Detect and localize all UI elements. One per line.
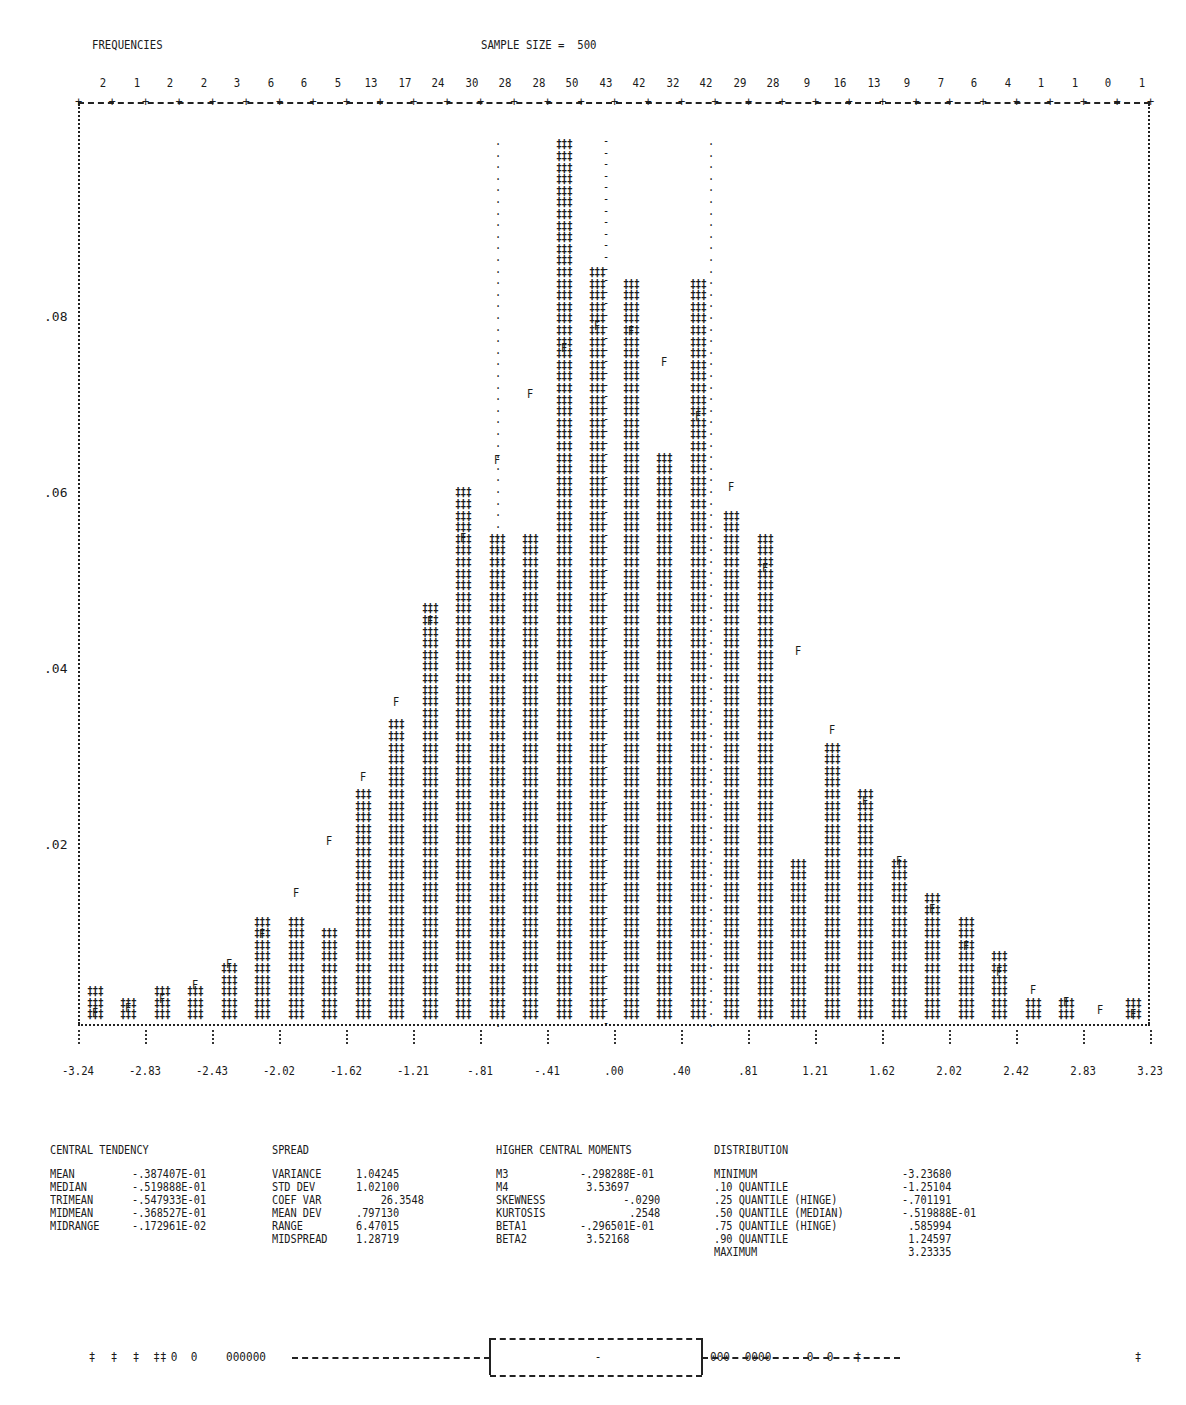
- x-tick-label: .81: [738, 1063, 757, 1078]
- bar-cell: ‡‡‡: [690, 498, 706, 510]
- bar-cell: ‡‡‡: [757, 776, 773, 788]
- bin-boundary-mark: +: [712, 99, 718, 105]
- bar-cell: ‡‡‡: [857, 962, 873, 974]
- bar-cell: ‡‡‡: [455, 544, 471, 556]
- bar-cell: ‡‡‡: [422, 672, 438, 684]
- bar-cell: ‡‡‡: [690, 1008, 706, 1020]
- x-tick: [949, 1030, 953, 1044]
- frequency-count: 28: [499, 75, 512, 90]
- fit-curve-marker: F: [728, 481, 734, 493]
- fit-curve-marker: F: [393, 696, 399, 708]
- bin-boundary-mark: +: [544, 99, 550, 105]
- bar-cell: ‡‡‡: [757, 927, 773, 939]
- bar-cell: ‡‡‡: [556, 939, 572, 951]
- fit-curve-marker: F: [963, 940, 969, 952]
- bar-cell: ‡‡‡: [623, 695, 639, 707]
- fit-curve-marker: F: [561, 342, 567, 354]
- bar-cell: ‡‡‡: [422, 869, 438, 881]
- quartile-line-mark: .: [495, 1017, 501, 1029]
- y-tick-label: .02: [44, 837, 67, 852]
- left-outlier-mark: 0: [171, 1349, 178, 1364]
- bar-cell: ‡‡‡: [556, 266, 572, 278]
- bar-cell: ‡‡‡: [690, 869, 706, 881]
- bar-cell: ‡‡‡: [924, 939, 940, 951]
- bar-cell: ‡‡‡: [723, 974, 739, 986]
- bar-cell: ‡‡‡: [455, 742, 471, 754]
- bar-cell: ‡‡‡: [556, 568, 572, 580]
- bar-cell: ‡‡‡: [958, 927, 974, 939]
- bar-cell: ‡‡‡: [623, 776, 639, 788]
- bar-cell: ‡‡‡: [388, 846, 404, 858]
- y-tick-label: .04: [44, 661, 67, 676]
- bar-cell: ‡‡‡: [857, 985, 873, 997]
- bar-cell: ‡‡‡: [824, 962, 840, 974]
- bar-cell: ‡‡‡: [757, 637, 773, 649]
- bar-cell: ‡‡‡: [656, 846, 672, 858]
- x-tick-label: -1.21: [397, 1063, 429, 1078]
- bar-cell: ‡‡‡: [857, 858, 873, 870]
- quartile-line-mark: .: [708, 1017, 714, 1029]
- bar-cell: ‡‡‡: [690, 591, 706, 603]
- bar-cell: ‡‡‡: [522, 591, 538, 603]
- left-border: [78, 104, 80, 1024]
- bar-cell: ‡‡‡: [87, 985, 103, 997]
- bar-cell: ‡‡‡: [891, 916, 907, 928]
- bar-cell: ‡‡‡: [522, 881, 538, 893]
- bar-cell: ‡‡‡: [757, 997, 773, 1009]
- bar-cell: ‡‡‡: [522, 626, 538, 638]
- bar-cell: ‡‡‡: [422, 904, 438, 916]
- bar-cell: ‡‡‡: [991, 997, 1007, 1009]
- fit-curve-marker: F: [795, 645, 801, 657]
- right-outlier-mark: 0: [827, 1349, 834, 1364]
- bar-cell: ‡‡‡: [757, 672, 773, 684]
- left-outlier-mark: ‡‡: [153, 1349, 166, 1364]
- bar-cell: ‡‡‡: [455, 869, 471, 881]
- bar-cell: ‡‡‡: [723, 672, 739, 684]
- bar-cell: ‡‡‡: [690, 626, 706, 638]
- bar-cell: ‡‡‡: [924, 950, 940, 962]
- bar-cell: ‡‡‡: [824, 753, 840, 765]
- bar-cell: ‡‡‡: [723, 939, 739, 951]
- bar-cell: ‡‡‡: [656, 684, 672, 696]
- bar-cell: ‡‡‡: [656, 568, 672, 580]
- bin-boundary-mark: +: [1080, 99, 1086, 105]
- bar-cell: ‡‡‡: [455, 626, 471, 638]
- bar-cell: ‡‡‡: [623, 939, 639, 951]
- bar-cell: ‡‡‡: [388, 776, 404, 788]
- bar-cell: ‡‡‡: [690, 452, 706, 464]
- bar-cell: ‡‡‡: [388, 950, 404, 962]
- bar-cell: ‡‡‡: [388, 823, 404, 835]
- frequency-count: 16: [834, 75, 847, 90]
- x-tick-label: -2.02: [263, 1063, 295, 1078]
- bar-cell: ‡‡‡: [288, 939, 304, 951]
- central-tendency-title: CENTRAL TENDENCY: [50, 1143, 149, 1156]
- frequency-count: 32: [666, 75, 679, 90]
- bar-cell: ‡‡‡: [656, 950, 672, 962]
- bar-cell: ‡‡‡: [656, 904, 672, 916]
- bar-cell: ‡‡‡: [422, 939, 438, 951]
- bar-cell: ‡‡‡: [321, 962, 337, 974]
- bar-cell: ‡‡‡: [991, 985, 1007, 997]
- x-tick: [1016, 1030, 1020, 1044]
- right-outlier-mark: 0000: [745, 1349, 772, 1364]
- bar-cell: ‡‡‡: [556, 614, 572, 626]
- bar-cell: ‡‡‡: [388, 718, 404, 730]
- bar-cell: ‡‡‡: [556, 486, 572, 498]
- bar-cell: ‡‡‡: [723, 568, 739, 580]
- bar-cell: ‡‡‡: [556, 254, 572, 266]
- x-axis-labels: -3.24-2.83-2.43-2.02-1.62-1.21-.81-.41.0…: [0, 1063, 1186, 1079]
- bar-cell: ‡‡‡: [690, 347, 706, 359]
- bar-cell: ‡‡‡: [723, 637, 739, 649]
- bar-cell: ‡‡‡: [757, 660, 773, 672]
- bin-boundary-mark: +: [511, 99, 517, 105]
- bar-cell: ‡‡‡: [522, 614, 538, 626]
- x-tick-label: 3.23: [1137, 1063, 1163, 1078]
- bar-cell: ‡‡‡: [723, 742, 739, 754]
- bar-cell: ‡‡‡: [723, 916, 739, 928]
- bar-cell: ‡‡‡: [790, 950, 806, 962]
- bar-cell: ‡‡‡: [623, 869, 639, 881]
- bar-cell: ‡‡‡: [757, 753, 773, 765]
- bar-cell: ‡‡‡: [790, 939, 806, 951]
- bar-cell: ‡‡‡: [824, 904, 840, 916]
- bar-cell: ‡‡‡: [757, 834, 773, 846]
